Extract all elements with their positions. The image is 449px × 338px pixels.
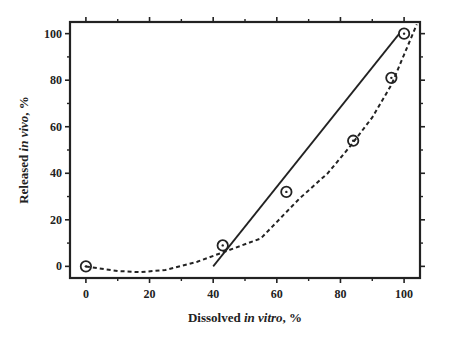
y-tick-label: 100 bbox=[44, 27, 62, 41]
x-axis-title-pre: Dissolved bbox=[188, 310, 244, 325]
data-point bbox=[386, 73, 396, 83]
data-point-center bbox=[403, 32, 405, 34]
plot-frame bbox=[70, 22, 420, 278]
plot-border bbox=[70, 22, 420, 278]
y-tick-label: 40 bbox=[50, 166, 62, 180]
dashed-fit-curve bbox=[86, 24, 417, 272]
y-tick-label: 20 bbox=[50, 213, 62, 227]
plot-series bbox=[81, 24, 417, 272]
x-tick-label: 0 bbox=[83, 287, 89, 301]
x-tick-label: 60 bbox=[271, 287, 283, 301]
x-axis-title: Dissolved in vitro, % bbox=[188, 310, 302, 325]
x-tick-label: 100 bbox=[395, 287, 413, 301]
y-axis-title-pre: Released bbox=[16, 151, 31, 203]
x-axis-title-post: , % bbox=[283, 310, 303, 325]
linear-fit-line bbox=[213, 34, 399, 267]
data-point-center bbox=[390, 77, 392, 79]
data-point-center bbox=[222, 244, 224, 246]
x-tick-label: 80 bbox=[334, 287, 346, 301]
y-tick-label: 60 bbox=[50, 120, 62, 134]
x-axis-title-italic: in vitro bbox=[244, 310, 283, 325]
data-point-center bbox=[85, 265, 87, 267]
y-axis-ticks: 020406080100 bbox=[44, 27, 425, 274]
y-tick-label: 0 bbox=[56, 259, 62, 273]
data-point-center bbox=[285, 191, 287, 193]
y-tick-label: 80 bbox=[50, 73, 62, 87]
data-point bbox=[218, 240, 228, 250]
data-point bbox=[348, 135, 358, 145]
x-axis-ticks: 020406080100 bbox=[83, 17, 413, 301]
y-axis-title-post: , % bbox=[16, 96, 31, 116]
x-tick-label: 20 bbox=[144, 287, 156, 301]
data-point-center bbox=[352, 139, 354, 141]
x-tick-label: 40 bbox=[207, 287, 219, 301]
chart: 020406080100 020406080100 Dissolved in v… bbox=[0, 0, 449, 338]
data-point bbox=[281, 187, 291, 197]
data-point bbox=[399, 28, 409, 38]
y-axis-title: Released in vivo, % bbox=[16, 96, 31, 204]
y-axis-title-italic: in vivo bbox=[16, 115, 31, 151]
